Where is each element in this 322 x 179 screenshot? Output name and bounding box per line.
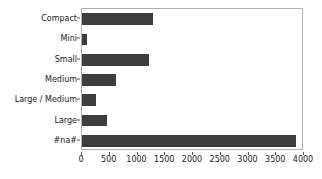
y-tick-mark xyxy=(77,38,80,39)
y-tick-label: Large xyxy=(54,115,77,124)
x-tick-label: 0 xyxy=(78,155,83,164)
y-tick-mark xyxy=(77,99,80,100)
bar-mini xyxy=(82,34,302,46)
bar-medium xyxy=(82,74,302,86)
x-axis-tick-labels: 05001000150020002500300035004000 xyxy=(0,152,322,168)
bar-fill xyxy=(82,94,96,106)
y-tick-label: Mini xyxy=(61,34,77,43)
bar-na xyxy=(82,135,302,147)
x-tick-label: 3000 xyxy=(237,155,257,164)
y-tick-label: Medium xyxy=(45,75,77,84)
plot-area xyxy=(81,8,303,150)
bar-fill xyxy=(82,54,149,66)
x-tick-label: 4000 xyxy=(293,155,313,164)
x-tick-label: 500 xyxy=(101,155,116,164)
bar-fill xyxy=(82,34,87,46)
x-tick-label: 2500 xyxy=(210,155,230,164)
y-tick-mark xyxy=(77,139,80,140)
x-tick-label: 1000 xyxy=(126,155,146,164)
x-tick-label: 1500 xyxy=(154,155,174,164)
bar-small xyxy=(82,54,302,66)
bar-large-medium xyxy=(82,94,302,106)
y-tick-mark xyxy=(77,18,80,19)
bar-chart-figure: CompactMiniSmallMediumLarge / MediumLarg… xyxy=(0,0,322,179)
bar-series xyxy=(82,9,302,149)
x-tick-label: 3500 xyxy=(265,155,285,164)
y-tick-label: Compact xyxy=(41,14,77,23)
bar-compact xyxy=(82,13,302,25)
bar-fill xyxy=(82,135,296,147)
y-tick-label: Large / Medium xyxy=(15,95,77,104)
y-tick-mark xyxy=(77,79,80,80)
y-tick-label: #na# xyxy=(54,135,77,144)
bar-large xyxy=(82,115,302,127)
bar-fill xyxy=(82,13,153,25)
y-tick-mark xyxy=(77,119,80,120)
bar-fill xyxy=(82,74,116,86)
x-tick-label: 2000 xyxy=(182,155,202,164)
y-tick-mark xyxy=(77,58,80,59)
y-tick-label: Small xyxy=(55,54,77,63)
bar-fill xyxy=(82,115,107,127)
y-axis-tick-labels: CompactMiniSmallMediumLarge / MediumLarg… xyxy=(0,8,77,150)
